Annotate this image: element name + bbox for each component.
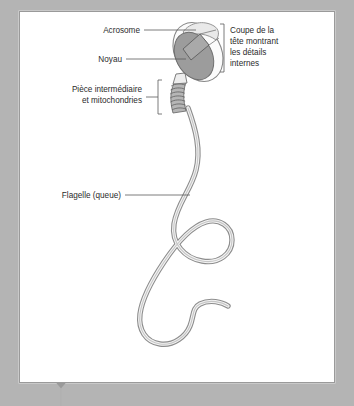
head-group <box>163 14 233 90</box>
pointer-marker[interactable] <box>54 381 68 406</box>
flagellum-group <box>140 108 232 344</box>
neck-segment <box>173 73 187 84</box>
flagellum-outline <box>140 108 232 344</box>
label-midpiece-line1: Pièce intermédiaire <box>72 85 143 94</box>
flagellum-axoneme-line <box>140 108 232 344</box>
label-coupe-line1: Coupe de la <box>230 26 275 35</box>
label-coupe-line4: internes <box>230 59 259 68</box>
label-coupe-line3: les détails <box>230 48 266 57</box>
midpiece-group <box>170 82 186 113</box>
spermatozoon-illustration: Acrosome Noyau Pièce intermédiaire et mi… <box>20 12 336 384</box>
label-midpiece-line2: et mitochondries <box>82 96 142 105</box>
flagellum-highlight <box>140 108 232 344</box>
diagram-canvas: Acrosome Noyau Pièce intermédiaire et mi… <box>0 0 354 406</box>
figure-frame: Acrosome Noyau Pièce intermédiaire et mi… <box>19 11 335 383</box>
label-flagelle: Flagelle (queue) <box>62 191 121 200</box>
label-noyau: Noyau <box>98 55 122 64</box>
midpiece-bracket <box>158 80 162 114</box>
label-coupe-line2: tête montrant <box>230 37 279 46</box>
down-triangle-icon <box>56 382 67 389</box>
label-acrosome: Acrosome <box>103 26 140 35</box>
